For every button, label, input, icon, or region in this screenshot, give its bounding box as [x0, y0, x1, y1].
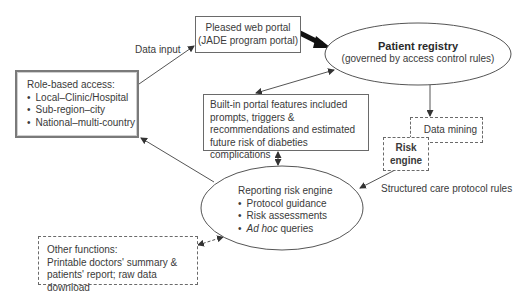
- risk-engine-line2: engine: [384, 155, 428, 168]
- other-title: Other functions:: [47, 244, 197, 257]
- role-item: National–multi-country: [27, 117, 137, 130]
- web-portal-box: Pleased web portal (JADE program portal): [195, 16, 301, 53]
- risk-engine-line1: Risk: [384, 142, 428, 155]
- role-access-title: Role-based access:: [27, 79, 137, 92]
- role-item: Local–Clinic/Hospital: [27, 92, 137, 105]
- adhoc-rest: queries: [278, 223, 314, 234]
- registry-title: Patient registry: [325, 40, 511, 53]
- registry-subtitle: (governed by access control rules): [325, 53, 511, 66]
- role-access-box: Role-based access: Local–Clinic/Hospital…: [15, 70, 139, 138]
- portal-features-box: Built-in portal features included prompt…: [203, 94, 369, 151]
- reporting-item: Risk assessments: [238, 210, 333, 223]
- features-text: Built-in portal features included prompt…: [210, 99, 363, 162]
- reporting-item: Protocol guidance: [238, 198, 333, 211]
- role-item: Sub-region–city: [27, 104, 137, 117]
- reporting-other-arrow: [198, 237, 223, 245]
- patient-registry: Patient registry (governed by access con…: [325, 40, 511, 65]
- reporting-risk-engine: Reporting risk engine Protocol guidance …: [238, 185, 333, 235]
- other-line1: Printable doctors' summary &: [47, 257, 197, 270]
- other-line2: patients' report; raw data download: [47, 269, 197, 294]
- reporting-item: Ad hoc queries: [238, 223, 333, 236]
- data-input-label: Data input: [135, 44, 181, 56]
- other-functions-box: Other functions: Printable doctors' summ…: [38, 236, 198, 285]
- data-mining-label: Data mining: [424, 124, 477, 135]
- adhoc-italic: Ad hoc: [247, 223, 278, 234]
- portal-line1: Pleased web portal: [196, 22, 300, 35]
- protocol-rules-label: Structured care protocol rules: [381, 183, 512, 195]
- reporting-title: Reporting risk engine: [238, 185, 333, 198]
- portal-line2: (JADE program portal): [196, 35, 300, 48]
- registry-features-arrow: [256, 70, 334, 93]
- risk-engine-box: Risk engine: [383, 137, 429, 171]
